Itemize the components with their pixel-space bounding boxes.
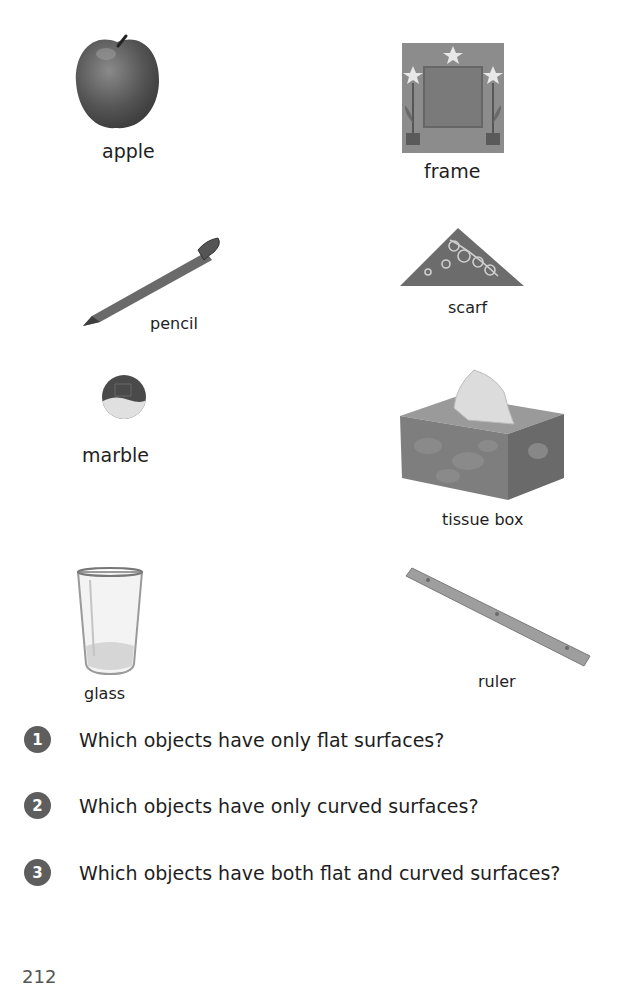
marble-label: marble [82, 444, 149, 466]
ruler-label: ruler [478, 672, 516, 691]
apple-image [72, 24, 162, 134]
tissue-box-image [398, 366, 566, 506]
scarf-image [398, 226, 526, 288]
tissue-box-label: tissue box [442, 510, 523, 529]
question-text: Which objects have both flat and curved … [79, 862, 560, 884]
question-number-badge: 3 [24, 859, 51, 886]
frame-label: frame [424, 160, 480, 182]
marble-icon [101, 374, 147, 420]
scarf-label: scarf [448, 298, 487, 317]
marble-image [101, 374, 147, 420]
question-text: Which objects have only flat surfaces? [79, 729, 444, 751]
frame-image [402, 43, 504, 153]
ruler-image [402, 566, 592, 670]
question-text: Which objects have only curved surfaces? [79, 795, 479, 817]
question-number-badge: 2 [24, 792, 51, 819]
glass-image [76, 566, 146, 678]
glass-label: glass [84, 684, 125, 703]
glass-icon [76, 566, 146, 678]
question-number-badge: 1 [24, 726, 51, 753]
question-2: 2 Which objects have only curved surface… [24, 792, 479, 819]
question-1: 1 Which objects have only flat surfaces? [24, 726, 444, 753]
apple-label: apple [102, 140, 155, 162]
tissue-box-icon [398, 366, 566, 506]
page-number: 212 [22, 966, 56, 987]
pencil-label: pencil [150, 314, 198, 333]
ruler-icon [402, 566, 592, 670]
picture-frame-icon [402, 43, 504, 153]
question-3: 3 Which objects have both flat and curve… [24, 859, 560, 886]
scarf-icon [398, 226, 526, 288]
apple-icon [72, 24, 162, 134]
